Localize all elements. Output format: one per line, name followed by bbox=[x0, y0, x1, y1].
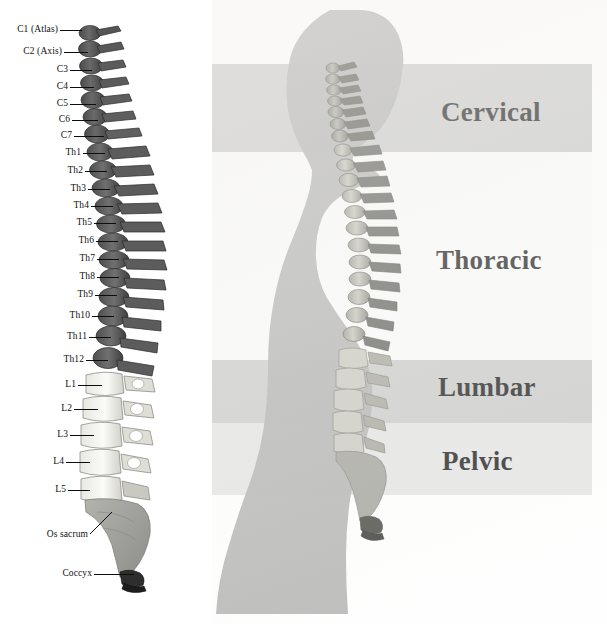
leader-line-coccyx bbox=[94, 574, 134, 575]
left-panel-labelled-spine: C1 (Atlas)C2 (Axis)C3C4C5C6C7Th1Th2Th3Th… bbox=[0, 0, 212, 624]
coccyx-label: Coccyx bbox=[62, 569, 92, 579]
region-label-thoracic: Thoracic bbox=[436, 245, 542, 276]
region-label-cervical: Cervical bbox=[441, 97, 541, 128]
spine-illustration-right bbox=[212, 0, 607, 624]
region-label-pelvic: Pelvic bbox=[442, 446, 513, 477]
sacrum-coccyx-right bbox=[336, 451, 386, 540]
leader-line-os-sacrum bbox=[0, 0, 212, 624]
region-label-lumbar: Lumbar bbox=[438, 372, 536, 403]
figure-root: C1 (Atlas)C2 (Axis)C3C4C5C6C7Th1Th2Th3Th… bbox=[0, 0, 607, 624]
right-panel-regions: CervicalThoracicLumbarPelvic bbox=[212, 0, 607, 624]
